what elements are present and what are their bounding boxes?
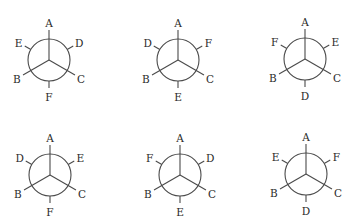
substituent-label-front-lower-left: B: [14, 188, 22, 200]
substituent-label-front-top: A: [173, 17, 182, 29]
substituent-label-front-lower-left: B: [142, 73, 150, 85]
front-bond-lower-left: [280, 174, 306, 189]
substituent-label-front-lower-left: B: [13, 73, 21, 85]
substituent-label-back-upper-left: D: [143, 37, 151, 49]
back-bond-upper-left: [26, 161, 32, 165]
newman-projection-1: ABCEDF: [13, 17, 85, 103]
front-bond-lower-left: [152, 60, 178, 75]
substituent-label-back-bottom: F: [45, 91, 52, 103]
substituent-label-back-upper-left: F: [271, 36, 278, 48]
substituent-label-back-upper-left: F: [146, 152, 153, 164]
back-bond-upper-left: [282, 160, 288, 164]
substituent-label-back-upper-right: D: [206, 152, 214, 164]
front-bond-lower-left: [23, 60, 49, 75]
front-bond-lower-right: [306, 174, 332, 189]
back-bond-upper-right: [324, 160, 330, 164]
front-bond-lower-right: [49, 60, 75, 75]
front-bond-lower-right: [50, 175, 76, 190]
substituent-label-back-upper-right: E: [331, 36, 339, 48]
substituent-label-back-upper-left: E: [272, 151, 280, 163]
newman-projection-6: ABCEFD: [270, 131, 342, 217]
back-bond-upper-right: [198, 161, 204, 165]
substituent-label-front-lower-left: B: [144, 188, 152, 200]
back-bond-upper-right: [68, 161, 74, 165]
back-bond-upper-right: [196, 46, 202, 50]
back-bond-upper-left: [281, 45, 287, 49]
back-bond-upper-left: [25, 46, 31, 50]
substituent-label-back-bottom: D: [301, 90, 309, 102]
front-bond-lower-right: [178, 60, 204, 75]
back-bond-upper-right: [67, 46, 73, 50]
substituent-label-front-lower-left: B: [269, 72, 277, 84]
front-bond-lower-left: [154, 175, 180, 190]
front-bond-lower-left: [279, 59, 305, 74]
front-bond-lower-right: [180, 175, 206, 190]
back-bond-upper-left: [156, 161, 162, 165]
substituent-label-front-lower-left: B: [270, 187, 278, 199]
substituent-label-front-lower-right: C: [206, 73, 214, 85]
newman-projection-2: ABCDFE: [142, 17, 214, 103]
substituent-label-back-upper-right: E: [76, 152, 84, 164]
front-bond-lower-left: [24, 175, 50, 190]
newman-projection-4: ABCDEF: [14, 132, 86, 218]
substituent-label-back-bottom: E: [174, 91, 182, 103]
substituent-label-back-upper-left: D: [15, 152, 23, 164]
substituent-label-back-bottom: D: [302, 205, 310, 217]
substituent-label-front-top: A: [301, 131, 310, 143]
substituent-label-back-bottom: E: [176, 206, 184, 218]
substituent-label-back-upper-right: D: [75, 37, 83, 49]
substituent-label-back-upper-right: F: [333, 151, 340, 163]
substituent-label-front-top: A: [175, 132, 184, 144]
newman-projection-5: ABCFDE: [144, 132, 216, 218]
back-bond-upper-right: [323, 45, 329, 49]
substituent-label-front-top: A: [300, 16, 309, 28]
front-bond-lower-right: [305, 59, 331, 74]
back-bond-upper-left: [154, 46, 160, 50]
substituent-label-front-top: A: [44, 17, 53, 29]
substituent-label-front-lower-right: C: [77, 73, 85, 85]
substituent-label-front-top: A: [45, 132, 54, 144]
substituent-label-front-lower-right: C: [78, 188, 86, 200]
newman-projection-3: ABCFED: [269, 16, 341, 102]
substituent-label-front-lower-right: C: [208, 188, 216, 200]
substituent-label-back-upper-right: F: [205, 37, 212, 49]
substituent-label-back-upper-left: E: [15, 37, 23, 49]
substituent-label-back-bottom: F: [46, 206, 53, 218]
substituent-label-front-lower-right: C: [334, 187, 342, 199]
substituent-label-front-lower-right: C: [333, 72, 341, 84]
newman-projections-figure: ABCEDF ABCDFE ABCFED ABCDEF ABCFDE ABCEF…: [0, 0, 355, 222]
